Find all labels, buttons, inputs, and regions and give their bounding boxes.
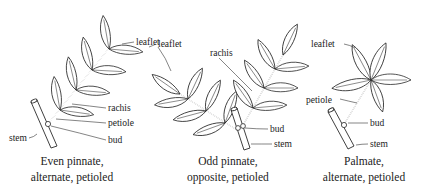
even-pinnate-diagram: rachis petiole bud stem Even pinnate, al… — [9, 15, 143, 184]
stem-illustration — [30, 98, 57, 148]
label-rachis: rachis — [210, 48, 233, 58]
caption-line-2: opposite, petioled — [187, 171, 269, 184]
caption-line-1: Even pinnate, — [40, 155, 103, 168]
label-petiole: petiole — [306, 95, 332, 105]
label-leaflet: leaflet — [311, 39, 335, 49]
caption-line-2: alternate, petioled — [31, 171, 114, 184]
label-stem: stem — [370, 139, 389, 149]
caption-line-1: Odd pinnate, — [198, 155, 258, 168]
bud-illustration — [236, 126, 241, 131]
caption-line-2: alternate, petioled — [323, 171, 406, 184]
bud-illustration — [45, 121, 50, 126]
label-bud: bud — [108, 135, 123, 145]
label-stem: stem — [274, 139, 293, 149]
label-leaflet: leaflet — [158, 39, 182, 49]
bud-illustration — [241, 124, 246, 129]
label-rachis: rachis — [108, 103, 131, 113]
caption-line-1: Palmate, — [344, 155, 384, 168]
leaflets — [331, 41, 411, 114]
label-petiole: petiole — [108, 118, 134, 128]
label-bud: bud — [270, 124, 285, 134]
label-bud: bud — [370, 118, 385, 128]
label-leaflet-even-pinnate: leaflet — [136, 37, 160, 47]
bud-illustration — [341, 122, 346, 127]
palmate-diagram: leaflet petiole bud stem Palmate, altern… — [306, 39, 411, 184]
leaflets-right-branch — [229, 22, 309, 112]
compound-leaf-diagram: rachis petiole bud stem Even pinnate, al… — [0, 0, 435, 193]
label-stem: stem — [9, 133, 28, 143]
odd-pinnate-diagram: leaflet rachis bud stem Odd pinnate, opp… — [149, 22, 309, 184]
